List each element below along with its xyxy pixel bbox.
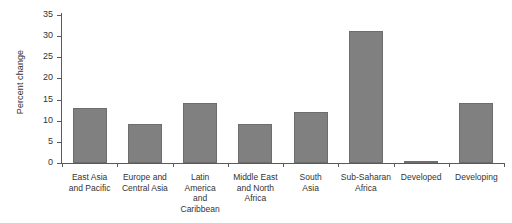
x-axis-tick-mark [62,163,63,167]
x-axis-category-label: Developed [394,172,449,183]
y-axis-tick-label: 35 [43,9,53,19]
bar [128,124,162,163]
bar [459,103,493,163]
x-axis-category-label: Europe and Central Asia [117,172,172,193]
y-axis-tick-mark [57,100,61,101]
bar [349,31,383,163]
x-axis-category-label: South Asia [283,172,338,193]
bar [294,112,328,163]
y-axis-tick-mark [57,57,61,58]
x-axis-tick-mark [338,163,339,167]
y-axis-tick-label: 5 [48,136,53,146]
y-axis-tick-mark [57,163,61,164]
x-axis-tick-mark [283,163,284,167]
plot-area: 05101520253035 [62,15,504,163]
x-axis-category-label: Sub-Saharan Africa [338,172,393,193]
x-axis-tick-mark [504,163,505,167]
x-axis-category-label: Middle East and North Africa [228,172,283,204]
y-axis-tick-label: 20 [43,72,53,82]
y-axis-label-text: Percent change [15,49,25,113]
bar [404,161,438,163]
x-axis-tick-mark [394,163,395,167]
x-axis-tick-mark [449,163,450,167]
y-axis-tick-label: 25 [43,51,53,61]
y-axis-tick-mark [57,78,61,79]
y-axis-tick-mark [57,142,61,143]
bar [238,124,272,163]
y-axis-label: Percent change [8,0,32,163]
y-axis-tick-mark [57,15,61,16]
x-axis-category-label: Developing [449,172,504,183]
x-axis-category-label: Latin America and Caribbean [173,172,228,214]
y-axis-tick-label: 15 [43,94,53,104]
y-axis-tick-label: 10 [43,115,53,125]
y-axis-tick-label: 0 [48,157,53,167]
y-axis-tick-mark [57,36,61,37]
bar [183,103,217,163]
bar [73,108,107,163]
x-axis-tick-mark [117,163,118,167]
x-axis-tick-mark [173,163,174,167]
x-axis-category-label: East Asia and Pacific [62,172,117,193]
y-axis-tick-label: 30 [43,30,53,40]
bar-chart: Percent change 05101520253035 East Asia … [0,0,512,223]
y-axis-tick-mark [57,121,61,122]
x-axis-tick-mark [228,163,229,167]
